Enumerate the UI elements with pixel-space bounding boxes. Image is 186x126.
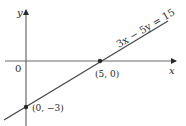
- point-y-intercept: [24, 105, 28, 109]
- origin-label: 0: [15, 63, 21, 74]
- y-axis-label: y: [16, 7, 23, 18]
- line-graph: y 0 x (5, 0) (0, −3) 3x − 5y = 15: [0, 0, 186, 126]
- point-x-intercept: [98, 59, 102, 63]
- equation-label: 3x − 5y = 15: [114, 6, 176, 50]
- point-label-x-intercept: (5, 0): [95, 69, 119, 79]
- point-label-y-intercept: (0, −3): [32, 103, 64, 113]
- equation-line: [4, 21, 168, 120]
- x-axis-label: x: [169, 65, 175, 76]
